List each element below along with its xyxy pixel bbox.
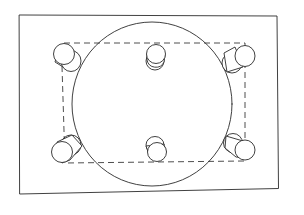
cylinder-bottom-left: [52, 135, 83, 163]
cylinder-top-right: [222, 46, 255, 74]
diagram-canvas: Hand-drawn sketch: rectangle frame with …: [0, 0, 304, 215]
sketch-svg: [0, 0, 304, 215]
cylinder-bottom-right: [224, 134, 256, 161]
cylinder-top-center: [146, 45, 166, 71]
cylinder-bottom-center: [146, 137, 167, 162]
outer-frame-rectangle: [20, 15, 279, 194]
cylinder-top-left: [54, 44, 82, 72]
